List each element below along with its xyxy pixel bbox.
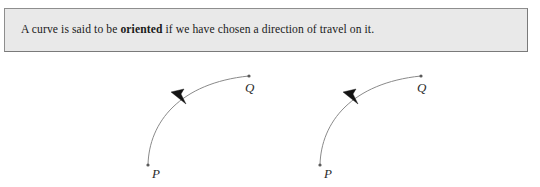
oriented-curve-figure-1: P Q <box>122 52 302 187</box>
curve-path <box>148 76 249 165</box>
oriented-curve-figure-2: P Q <box>294 52 474 187</box>
start-point-dot <box>318 163 321 166</box>
end-point-label: Q <box>245 80 255 95</box>
definition-text: A curve is said to be oriented if we hav… <box>21 22 374 37</box>
start-point-dot <box>146 163 149 166</box>
definition-callout-box: A curve is said to be oriented if we hav… <box>4 8 528 52</box>
figures-area: P Q P Q <box>0 52 540 187</box>
end-point-dot <box>247 74 250 77</box>
end-point-dot <box>419 74 422 77</box>
end-point-label: Q <box>417 80 427 95</box>
curve-path <box>320 76 421 165</box>
definition-text-before: A curve is said to be <box>21 23 120 36</box>
page-root: A curve is said to be oriented if we hav… <box>0 0 540 187</box>
start-point-label: P <box>151 166 160 181</box>
definition-term: oriented <box>120 23 162 36</box>
start-point-label: P <box>323 166 332 181</box>
definition-text-after: if we have chosen a direction of travel … <box>162 23 374 36</box>
